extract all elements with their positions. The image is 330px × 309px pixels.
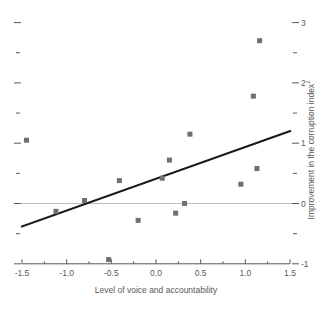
x-tick-label: 1.0	[239, 269, 251, 278]
y-axis-title-superscript: 2	[305, 81, 311, 84]
y-tick-label: -1	[301, 260, 309, 269]
data-point	[53, 209, 58, 214]
trend-line	[22, 131, 290, 226]
x-axis-line-and-ticks	[22, 259, 290, 264]
scatter-plot-canvas	[0, 0, 330, 309]
x-tick-label: -0.5	[104, 269, 119, 278]
x-axis-title: Level of voice and accountability	[95, 286, 217, 295]
x-tick-label: 0.0	[150, 269, 162, 278]
data-point	[82, 198, 87, 203]
data-point	[106, 257, 111, 262]
data-point	[254, 166, 259, 171]
x-tick-label: -1.0	[59, 269, 74, 278]
y-tick-label: 3	[301, 18, 306, 27]
data-points	[24, 38, 262, 262]
data-point	[182, 201, 187, 206]
data-point	[136, 218, 141, 223]
x-tick-label: -1.5	[15, 269, 30, 278]
x-tick-label: 0.5	[195, 269, 207, 278]
y-axis-title: Improvement in the corruption index2	[307, 81, 316, 220]
data-point	[173, 211, 178, 216]
data-point	[257, 38, 262, 43]
data-point	[251, 94, 256, 99]
data-point	[187, 132, 192, 137]
right-axis-ticks	[292, 23, 299, 264]
data-point	[167, 158, 172, 163]
data-point	[24, 138, 29, 143]
chart-figure: -1.5-1.0-0.50.00.51.01.5 -10123 Level of…	[0, 0, 330, 309]
data-point	[238, 182, 243, 187]
data-point	[160, 176, 165, 181]
data-point	[117, 178, 122, 183]
left-axis-ticks	[14, 23, 21, 264]
y-axis-title-text: Improvement in the corruption index	[306, 84, 316, 220]
x-tick-label: 1.5	[284, 269, 296, 278]
